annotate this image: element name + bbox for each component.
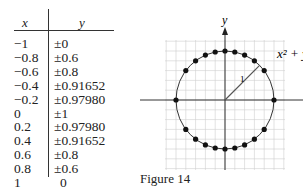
data-point xyxy=(222,146,227,151)
cell-x: −0.8 xyxy=(14,51,39,65)
data-point xyxy=(193,58,198,63)
data-point xyxy=(262,127,267,132)
table-row: 0.6±0.8 xyxy=(0,148,120,162)
equation-label: x² + y² xyxy=(276,46,303,61)
table-row: −0.6±0.8 xyxy=(0,65,120,79)
cell-x: 1 xyxy=(14,176,21,190)
data-point xyxy=(232,145,237,150)
data-point xyxy=(252,137,257,142)
table-row: 0.8±0.6 xyxy=(0,162,120,176)
table-row: −0.8±0.6 xyxy=(0,51,120,65)
table-header-rule xyxy=(14,30,114,31)
cell-x: 0.8 xyxy=(14,162,31,176)
column-header-y: y xyxy=(79,15,85,31)
circle-figure: y 1 x² + y² xyxy=(140,10,303,195)
cell-y: ±0.91652 xyxy=(54,134,105,148)
cell-x: 0.4 xyxy=(14,134,31,148)
data-point xyxy=(183,68,188,73)
data-point xyxy=(271,97,276,102)
cell-x: −1 xyxy=(14,37,28,51)
data-point xyxy=(252,58,257,63)
table-row: −0.4±0.91652 xyxy=(0,79,120,93)
table-row: 0.4±0.91652 xyxy=(0,134,120,148)
data-point xyxy=(203,52,208,57)
values-table: x y −1±0−0.8±0.6−0.6±0.8−0.4±0.91652−0.2… xyxy=(0,0,120,195)
table-row: −0.2±0.97980 xyxy=(0,93,120,107)
table-row: 0.2±0.97980 xyxy=(0,120,120,134)
data-point xyxy=(242,142,247,147)
circle-plot: y 1 x² + y² xyxy=(140,10,303,195)
data-point xyxy=(183,127,188,132)
table-row: −1±0 xyxy=(0,37,120,51)
cell-x: −0.2 xyxy=(14,93,39,107)
cell-y: ±0.6 xyxy=(54,51,78,65)
cell-y: ±0.8 xyxy=(54,65,78,79)
y-axis-label: y xyxy=(221,13,228,27)
figure-caption: Figure 14 xyxy=(140,171,190,187)
data-point xyxy=(232,49,237,54)
cell-x: 0 xyxy=(14,107,21,121)
cell-x: 0.6 xyxy=(14,148,31,162)
data-point xyxy=(173,97,178,102)
cell-y: 0 xyxy=(60,176,67,190)
table-row: 10 xyxy=(0,176,120,190)
cell-y: ±0.97980 xyxy=(54,120,105,134)
data-point xyxy=(262,68,267,73)
table-row: 0±1 xyxy=(0,107,120,121)
data-point xyxy=(203,142,208,147)
data-point xyxy=(242,52,247,57)
cell-x: −0.6 xyxy=(14,65,39,79)
y-axis-arrow-icon xyxy=(222,27,228,35)
column-header-x: x xyxy=(22,15,28,31)
data-point xyxy=(213,145,218,150)
data-point xyxy=(193,137,198,142)
cell-y: ±0 xyxy=(54,37,68,51)
cell-y: ±0.6 xyxy=(54,162,78,176)
cell-y: ±0.91652 xyxy=(54,79,105,93)
data-point xyxy=(213,49,218,54)
cell-y: ±0.8 xyxy=(54,148,78,162)
cell-y: ±0.97980 xyxy=(54,93,105,107)
data-point xyxy=(222,48,227,53)
cell-x: 0.2 xyxy=(14,120,31,134)
cell-x: −0.4 xyxy=(14,79,39,93)
cell-y: ±1 xyxy=(54,107,68,121)
radius-label: 1 xyxy=(240,74,245,84)
